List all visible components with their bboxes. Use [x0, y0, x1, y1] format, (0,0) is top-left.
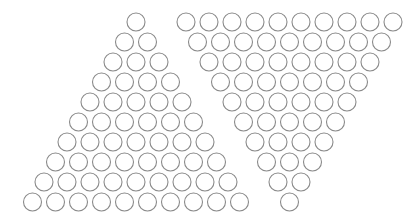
circle — [327, 33, 345, 51]
circle — [269, 133, 287, 151]
circle — [58, 173, 76, 191]
circle — [150, 93, 168, 111]
circle — [150, 133, 168, 151]
circle — [139, 33, 157, 51]
circle — [281, 73, 299, 91]
circle — [173, 93, 191, 111]
circle — [292, 133, 310, 151]
circle — [246, 13, 264, 31]
circle — [235, 73, 253, 91]
circle — [361, 53, 379, 71]
circle — [315, 13, 333, 31]
circle — [281, 153, 299, 171]
circle — [350, 73, 368, 91]
circle — [116, 193, 134, 211]
circle — [223, 93, 241, 111]
circle — [47, 153, 65, 171]
circle — [189, 33, 207, 51]
circle — [81, 93, 99, 111]
circle — [116, 33, 134, 51]
circle — [212, 73, 230, 91]
circle — [127, 13, 145, 31]
circle — [177, 13, 195, 31]
circle — [139, 73, 157, 91]
circle — [327, 73, 345, 91]
circle — [231, 193, 249, 211]
circle — [338, 93, 356, 111]
circle — [196, 133, 214, 151]
circle — [116, 153, 134, 171]
circle — [162, 113, 180, 131]
circle — [258, 153, 276, 171]
circle — [208, 193, 226, 211]
circle — [185, 113, 203, 131]
circle — [327, 113, 345, 131]
circle — [246, 133, 264, 151]
circle — [104, 133, 122, 151]
circle — [315, 53, 333, 71]
circle — [269, 53, 287, 71]
circle — [235, 33, 253, 51]
circle — [350, 33, 368, 51]
circle — [200, 53, 218, 71]
circle — [384, 13, 402, 31]
circle — [173, 133, 191, 151]
circle — [150, 53, 168, 71]
circle — [185, 153, 203, 171]
circle — [116, 113, 134, 131]
circle — [173, 173, 191, 191]
circle — [150, 173, 168, 191]
circle — [162, 153, 180, 171]
circle — [35, 173, 53, 191]
circle — [269, 93, 287, 111]
circle — [81, 173, 99, 191]
circles-figure — [0, 0, 420, 220]
circle — [292, 173, 310, 191]
circle — [196, 173, 214, 191]
circle — [139, 113, 157, 131]
circle — [139, 153, 157, 171]
circle — [292, 93, 310, 111]
circle — [127, 53, 145, 71]
circle — [315, 93, 333, 111]
circle — [58, 133, 76, 151]
circle — [104, 53, 122, 71]
circle — [258, 113, 276, 131]
circle — [162, 73, 180, 91]
circle — [93, 73, 111, 91]
circle — [127, 93, 145, 111]
circle — [361, 13, 379, 31]
circle — [281, 33, 299, 51]
inverted-triangle-of-circles — [177, 13, 402, 211]
circle — [93, 113, 111, 131]
circle — [246, 93, 264, 111]
circle — [139, 193, 157, 211]
circle — [246, 53, 264, 71]
circle — [269, 13, 287, 31]
circle — [292, 53, 310, 71]
circle — [235, 113, 253, 131]
circle — [258, 73, 276, 91]
circle — [304, 33, 322, 51]
circle — [93, 153, 111, 171]
circle — [281, 193, 299, 211]
circle — [104, 173, 122, 191]
circle — [104, 93, 122, 111]
circle — [315, 133, 333, 151]
circle — [24, 193, 42, 211]
upright-triangle-of-circles — [24, 13, 249, 211]
circle — [47, 193, 65, 211]
circle — [269, 173, 287, 191]
circle — [223, 13, 241, 31]
circle — [304, 153, 322, 171]
circle — [127, 173, 145, 191]
circle — [338, 13, 356, 31]
circle — [304, 73, 322, 91]
circle — [70, 153, 88, 171]
circle — [338, 53, 356, 71]
circle — [70, 193, 88, 211]
circle-triangles-diagram — [0, 0, 420, 220]
circle — [81, 133, 99, 151]
circle — [116, 73, 134, 91]
circle — [208, 153, 226, 171]
